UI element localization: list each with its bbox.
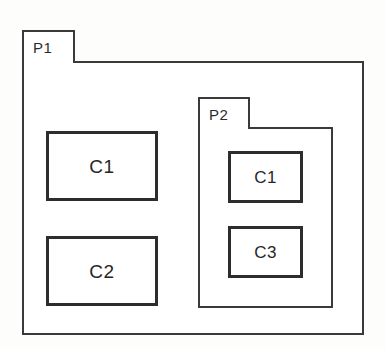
class-box-c3-in-p2-label: C3 [254,244,277,261]
package-p1-label: P1 [24,40,52,55]
package-p2-label: P2 [200,107,228,122]
package-p2-tab-seam [201,126,247,129]
diagram-canvas: P1 C1 C2 P2 C1 C3 [0,0,386,349]
class-box-c3-in-p2[interactable]: C3 [228,226,303,278]
package-p1-tab-seam [25,60,72,63]
class-box-c1-in-p2[interactable]: C1 [228,151,303,203]
class-box-c1-in-p2-label: C1 [254,169,277,186]
class-box-c2-in-p1[interactable]: C2 [46,236,158,306]
package-p2-tab[interactable]: P2 [198,97,250,129]
class-box-c1-in-p1-label: C1 [89,157,114,176]
class-box-c1-in-p1[interactable]: C1 [46,131,158,201]
class-box-c2-in-p1-label: C2 [89,262,114,281]
package-p1-tab[interactable]: P1 [22,30,75,63]
